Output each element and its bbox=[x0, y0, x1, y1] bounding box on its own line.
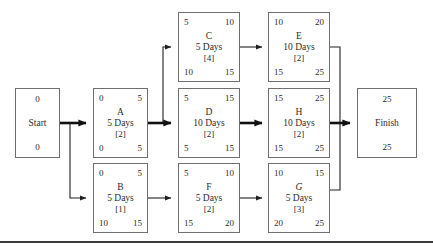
node-activity-a[interactable]: 0 5 A 5 Days [2] 0 5 bbox=[93, 88, 148, 158]
node-activity-h[interactable]: 15 25 H 10 Days [2] 15 25 bbox=[268, 88, 330, 158]
d-late-finish: 15 bbox=[225, 143, 234, 153]
h-duration: 10 Days bbox=[269, 118, 329, 129]
c-resources: [4] bbox=[179, 53, 239, 63]
b-center: B 5 Days [1] bbox=[94, 182, 147, 214]
c-name: C bbox=[179, 31, 239, 42]
f-name: F bbox=[179, 182, 239, 193]
c-duration: 5 Days bbox=[179, 42, 239, 53]
c-early-finish: 10 bbox=[225, 17, 234, 27]
node-activity-f[interactable]: 5 10 F 5 Days [2] 15 20 bbox=[178, 163, 240, 233]
node-activity-d[interactable]: 5 15 D 10 Days [2] 5 15 bbox=[178, 88, 240, 158]
b-resources: [1] bbox=[94, 204, 147, 214]
h-late-start: 15 bbox=[274, 143, 283, 153]
e-duration: 10 Days bbox=[269, 42, 329, 53]
h-late-finish: 25 bbox=[315, 143, 324, 153]
b-late-finish: 15 bbox=[133, 218, 142, 228]
f-duration: 5 Days bbox=[179, 193, 239, 204]
edge-e-to-finish bbox=[330, 47, 350, 123]
d-resources: [2] bbox=[179, 129, 239, 139]
node-activity-g[interactable]: 10 15 G 5 Days [3] 20 25 bbox=[268, 163, 330, 233]
f-early-finish: 10 bbox=[225, 168, 234, 178]
c-center: C 5 Days [4] bbox=[179, 31, 239, 63]
g-name: G bbox=[269, 182, 329, 193]
node-activity-c[interactable]: 5 10 C 5 Days [4] 10 15 bbox=[178, 12, 240, 82]
edge-start-to-b bbox=[70, 123, 86, 198]
a-name: A bbox=[94, 107, 147, 118]
f-late-start: 15 bbox=[184, 218, 193, 228]
g-early-start: 10 bbox=[274, 168, 283, 178]
h-resources: [2] bbox=[269, 129, 329, 139]
a-early-start: 0 bbox=[99, 93, 104, 103]
start-bottom-value: 0 bbox=[16, 142, 59, 152]
footer-divider bbox=[0, 241, 433, 243]
finish-top-value: 25 bbox=[358, 94, 416, 104]
e-late-finish: 25 bbox=[315, 67, 324, 77]
e-early-start: 10 bbox=[274, 17, 283, 27]
finish-label: Finish bbox=[358, 118, 416, 129]
b-early-finish: 5 bbox=[138, 168, 143, 178]
node-start[interactable]: 0 Start 0 bbox=[15, 88, 60, 158]
edge-a-to-c bbox=[148, 47, 171, 123]
h-name: H bbox=[269, 107, 329, 118]
h-early-start: 15 bbox=[274, 93, 283, 103]
d-late-start: 5 bbox=[184, 143, 189, 153]
node-activity-b[interactable]: 0 5 B 5 Days [1] 10 15 bbox=[93, 163, 148, 233]
b-name: B bbox=[94, 182, 147, 193]
b-duration: 5 Days bbox=[94, 193, 147, 204]
a-late-start: 0 bbox=[99, 143, 104, 153]
a-center: A 5 Days [2] bbox=[94, 107, 147, 139]
start-top-value: 0 bbox=[16, 94, 59, 104]
g-resources: [3] bbox=[269, 204, 329, 214]
e-late-start: 15 bbox=[274, 67, 283, 77]
b-late-start: 10 bbox=[99, 218, 108, 228]
e-center: E 10 Days [2] bbox=[269, 31, 329, 63]
h-center: H 10 Days [2] bbox=[269, 107, 329, 139]
d-name: D bbox=[179, 107, 239, 118]
d-duration: 10 Days bbox=[179, 118, 239, 129]
c-late-start: 10 bbox=[184, 67, 193, 77]
e-early-finish: 20 bbox=[315, 17, 324, 27]
edge-g-to-finish bbox=[330, 123, 340, 190]
g-duration: 5 Days bbox=[269, 193, 329, 204]
finish-center: Finish bbox=[358, 118, 416, 129]
a-early-finish: 5 bbox=[138, 93, 143, 103]
a-duration: 5 Days bbox=[94, 118, 147, 129]
f-resources: [2] bbox=[179, 204, 239, 214]
c-early-start: 5 bbox=[184, 17, 189, 27]
g-center: G 5 Days [3] bbox=[269, 182, 329, 214]
g-late-start: 20 bbox=[274, 218, 283, 228]
a-late-finish: 5 bbox=[138, 143, 143, 153]
f-center: F 5 Days [2] bbox=[179, 182, 239, 214]
g-early-finish: 15 bbox=[315, 168, 324, 178]
node-activity-e[interactable]: 10 20 E 10 Days [2] 15 25 bbox=[268, 12, 330, 82]
e-resources: [2] bbox=[269, 53, 329, 63]
h-early-finish: 25 bbox=[315, 93, 324, 103]
network-diagram-canvas: 0 Start 0 0 5 A 5 Days [2] 0 5 0 5 B 5 D… bbox=[0, 0, 433, 251]
node-finish[interactable]: 25 Finish 25 bbox=[357, 88, 417, 158]
c-late-finish: 15 bbox=[225, 67, 234, 77]
d-early-finish: 15 bbox=[225, 93, 234, 103]
f-late-finish: 20 bbox=[225, 218, 234, 228]
d-center: D 10 Days [2] bbox=[179, 107, 239, 139]
start-center: Start bbox=[16, 118, 59, 129]
a-resources: [2] bbox=[94, 129, 147, 139]
start-label: Start bbox=[16, 118, 59, 129]
b-early-start: 0 bbox=[99, 168, 104, 178]
g-late-finish: 25 bbox=[315, 218, 324, 228]
finish-bottom-value: 25 bbox=[358, 142, 416, 152]
e-name: E bbox=[269, 31, 329, 42]
d-early-start: 5 bbox=[184, 93, 189, 103]
f-early-start: 5 bbox=[184, 168, 189, 178]
